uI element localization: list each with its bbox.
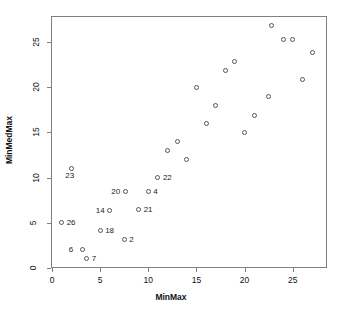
- data-point-label: 6: [69, 246, 73, 254]
- y-tick-mark: [47, 87, 51, 88]
- data-point: [59, 220, 64, 225]
- data-point-label: 7: [92, 255, 96, 263]
- x-tick-mark: [245, 268, 246, 272]
- x-tick-label: 0: [50, 275, 55, 285]
- scatter-plot-figure: 262367181422021422 0510152025 0510152025…: [0, 0, 342, 317]
- x-axis-label: MinMax: [0, 292, 342, 302]
- data-point: [232, 59, 237, 64]
- data-point: [165, 148, 170, 153]
- data-point: [107, 208, 112, 213]
- data-point: [136, 207, 141, 212]
- x-tick-label: 20: [240, 275, 249, 285]
- data-point: [175, 139, 180, 144]
- y-tick-mark: [47, 223, 51, 224]
- y-tick-label: 0: [28, 266, 38, 271]
- data-point-label: 23: [65, 172, 74, 180]
- y-tick-mark: [47, 178, 51, 179]
- data-point-label: 14: [96, 207, 105, 215]
- data-point: [252, 113, 257, 118]
- data-point: [310, 50, 315, 55]
- y-tick-label: 15: [31, 128, 41, 137]
- x-tick-label: 10: [144, 275, 153, 285]
- data-point-label: 21: [144, 206, 153, 214]
- data-point: [194, 85, 199, 90]
- y-tick-label: 5: [28, 220, 38, 225]
- data-point: [223, 68, 228, 73]
- data-point: [184, 157, 189, 162]
- data-point: [84, 256, 89, 261]
- data-point-label: 2: [129, 236, 133, 244]
- y-tick-label: 20: [31, 82, 41, 91]
- x-tick-label: 25: [288, 275, 297, 285]
- data-point: [204, 121, 209, 126]
- data-point: [155, 175, 160, 180]
- y-tick-label: 25: [31, 37, 41, 46]
- x-tick-mark: [148, 268, 149, 272]
- x-tick-mark: [293, 268, 294, 272]
- y-tick-mark: [47, 42, 51, 43]
- data-point: [269, 23, 274, 28]
- data-point: [300, 77, 305, 82]
- data-point: [122, 237, 127, 242]
- data-point: [69, 166, 74, 171]
- data-point: [98, 228, 103, 233]
- data-point-label: 22: [163, 174, 172, 182]
- data-point: [123, 189, 128, 194]
- data-point-label: 18: [105, 227, 114, 235]
- y-tick-label: 10: [31, 173, 41, 182]
- x-tick-mark: [52, 268, 53, 272]
- y-tick-mark: [47, 132, 51, 133]
- data-point: [281, 37, 286, 42]
- data-point-label: 4: [153, 188, 157, 196]
- data-point-label: 26: [67, 219, 76, 227]
- data-point: [266, 94, 271, 99]
- y-tick-mark: [47, 268, 51, 269]
- x-tick-mark: [196, 268, 197, 272]
- y-axis-label: MinMedMax: [4, 100, 14, 180]
- data-point: [146, 189, 151, 194]
- data-point: [213, 103, 218, 108]
- data-point: [80, 247, 85, 252]
- x-tick-label: 5: [98, 275, 103, 285]
- x-tick-mark: [100, 268, 101, 272]
- data-point-label: 20: [111, 188, 120, 196]
- x-tick-label: 15: [192, 275, 201, 285]
- data-point: [242, 130, 247, 135]
- data-point: [290, 37, 295, 42]
